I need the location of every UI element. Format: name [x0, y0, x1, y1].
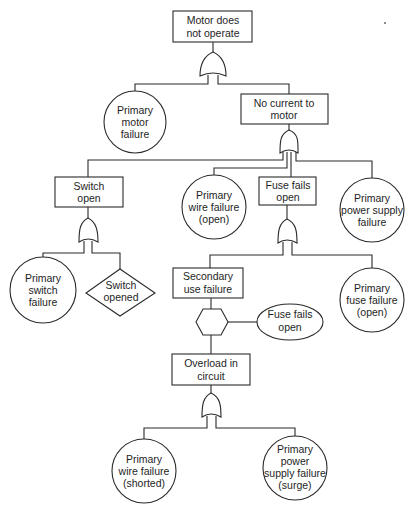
or-gate-fuse-fails [278, 219, 297, 243]
event-switch-opened[interactable]: Switch opened [86, 269, 155, 316]
event-fuse-fails-open[interactable]: Fuse fails open [259, 177, 316, 205]
label-line: open [77, 192, 101, 204]
label-line: open [276, 191, 300, 203]
label-line: power [281, 455, 310, 467]
label-line: (shorted) [123, 477, 165, 489]
label-line: (open) [357, 306, 387, 318]
label-line: Switch [74, 180, 105, 192]
label-line: Switch [106, 279, 137, 291]
event-primary-motor-failure[interactable]: Primary motor failure [104, 91, 166, 153]
or-gate-top [200, 52, 226, 76]
label-line: failure [358, 216, 387, 228]
event-overload-in-circuit[interactable]: Overload in circuit [172, 354, 250, 385]
event-primary-wire-failure-open[interactable]: Primary wire failure (open) [182, 175, 246, 239]
label-line: fuse failure [346, 294, 398, 306]
label-line: (open) [199, 213, 229, 225]
event-motor-does-not-operate[interactable]: Motor does not operate [173, 11, 252, 42]
label-line: Primary [196, 189, 233, 201]
event-primary-wire-failure-shorted[interactable]: Primary wire failure (shorted) [112, 439, 176, 503]
label-line: Primary [117, 104, 154, 116]
label-line: use failure [184, 283, 233, 295]
or-gate-switch-open [79, 218, 98, 242]
event-primary-power-supply-failure-surge[interactable]: Primary power supply failure (surge) [263, 436, 327, 500]
label-line: motor [271, 109, 298, 121]
event-primary-switch-failure[interactable]: Primary switch failure [10, 257, 76, 323]
label-line: Fuse fails [266, 179, 311, 191]
label-line: wire failure [188, 201, 240, 213]
label-line: Primary [277, 443, 314, 455]
event-primary-fuse-failure-open[interactable]: Primary fuse failure (open) [340, 268, 404, 332]
event-conditioning-fuse-fails-open[interactable]: Fuse fails open [257, 304, 323, 340]
label-line: (surge) [278, 479, 311, 491]
label-line: Primary [126, 453, 163, 465]
event-secondary-use-failure[interactable]: Secondary use failure [173, 268, 243, 298]
label-line: Motor does [187, 14, 240, 26]
event-switch-open[interactable]: Switch open [55, 177, 123, 207]
label-line: No current to [254, 97, 315, 109]
event-no-current-to-motor[interactable]: No current to motor [241, 94, 328, 124]
label-line: not operate [186, 27, 239, 39]
label-line: opened [103, 291, 138, 303]
label-line: open [278, 321, 302, 333]
label-line: Primary [25, 272, 62, 284]
label-line: Secondary [183, 270, 234, 282]
inhibit-gate-hexagon [196, 309, 228, 335]
or-gate-no-current [280, 130, 298, 153]
or-gate-overload [202, 393, 221, 417]
fault-tree-diagram: Motor does not operate Primary motor fai… [0, 0, 412, 511]
label-line: failure [29, 296, 58, 308]
label-line: Primary [354, 282, 391, 294]
label-line: failure [121, 128, 150, 140]
label-line: switch [28, 284, 57, 296]
event-primary-power-supply-failure[interactable]: Primary power supply failure [340, 178, 404, 242]
label-line: Overload in [184, 357, 238, 369]
label-line: Fuse fails [268, 308, 313, 320]
label-line: supply failure [264, 467, 326, 479]
label-line: motor [122, 116, 149, 128]
label-line: Primary [354, 192, 391, 204]
label-line: wire failure [118, 465, 170, 477]
label-line: power supply [341, 204, 404, 216]
speck-mark [384, 22, 386, 24]
label-line: circuit [197, 370, 225, 382]
